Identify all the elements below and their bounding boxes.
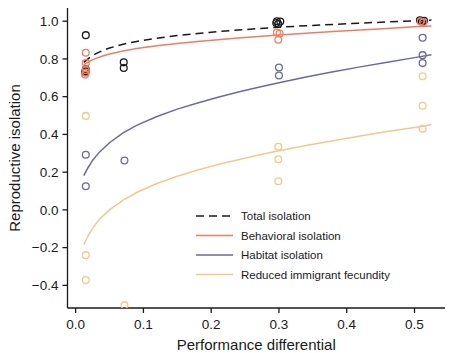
curve-habitat [84, 55, 432, 176]
data-point-fecundity [275, 178, 282, 185]
data-point-habitat [276, 64, 283, 71]
x-tick-label: 0.2 [202, 317, 221, 332]
data-point-habitat [419, 34, 426, 41]
y-tick-label: 1.0 [40, 14, 59, 29]
x-tick-label: 0.3 [270, 317, 289, 332]
data-point-behavioral [275, 36, 282, 43]
data-point-fecundity [82, 113, 89, 120]
data-point-habitat [82, 183, 89, 190]
data-point-fecundity [419, 102, 426, 109]
data-point-habitat [82, 151, 89, 158]
data-point-habitat [276, 72, 283, 79]
x-tick-label: 0.5 [405, 317, 424, 332]
y-tick-label: −0.2 [32, 240, 59, 255]
data-point-habitat [419, 60, 426, 67]
data-point-fecundity [82, 252, 89, 259]
legend-label-2: Habitat isolation [241, 249, 323, 261]
x-tick-label: 0.4 [337, 317, 356, 332]
curve-fecundity [84, 125, 432, 245]
x-axis-title: Performance differential [177, 336, 336, 353]
legend-label-1: Behavioral isolation [241, 230, 341, 242]
y-tick-label: 0.6 [40, 89, 59, 104]
axis-labels-layer: 1.00.80.60.40.20.0−0.2−0.40.00.10.20.30.… [6, 14, 424, 353]
y-tick-label: 0.8 [40, 52, 59, 67]
data-point-fecundity [275, 143, 282, 150]
axes-layer [63, 8, 446, 313]
legend-label-0: Total isolation [241, 210, 311, 222]
data-point-fecundity [419, 73, 426, 80]
data-point-fecundity [82, 277, 89, 284]
y-tick-label: 0.4 [40, 127, 59, 142]
chart-figure: 1.00.80.60.40.20.0−0.2−0.40.00.10.20.30.… [0, 0, 452, 353]
curve-behavioral [84, 26, 432, 65]
data-points-layer [82, 17, 428, 309]
x-tick-label: 0.1 [134, 317, 153, 332]
legend-label-3: Reduced immigrant fecundity [241, 269, 390, 281]
data-point-habitat [121, 157, 128, 164]
data-point-total [82, 32, 89, 39]
x-tick-label: 0.0 [66, 317, 85, 332]
y-tick-label: −0.4 [32, 278, 59, 293]
y-tick-label: 0.0 [40, 203, 59, 218]
chart-legend: Total isolationBehavioral isolationHabit… [196, 210, 390, 280]
data-point-behavioral [82, 49, 89, 56]
curve-total [84, 20, 432, 62]
y-axis-title: Reproductive isolation [6, 84, 23, 232]
data-point-fecundity [275, 156, 282, 163]
y-tick-label: 0.2 [40, 165, 59, 180]
scatter-plot-canvas: 1.00.80.60.40.20.0−0.2−0.40.00.10.20.30.… [0, 0, 452, 353]
